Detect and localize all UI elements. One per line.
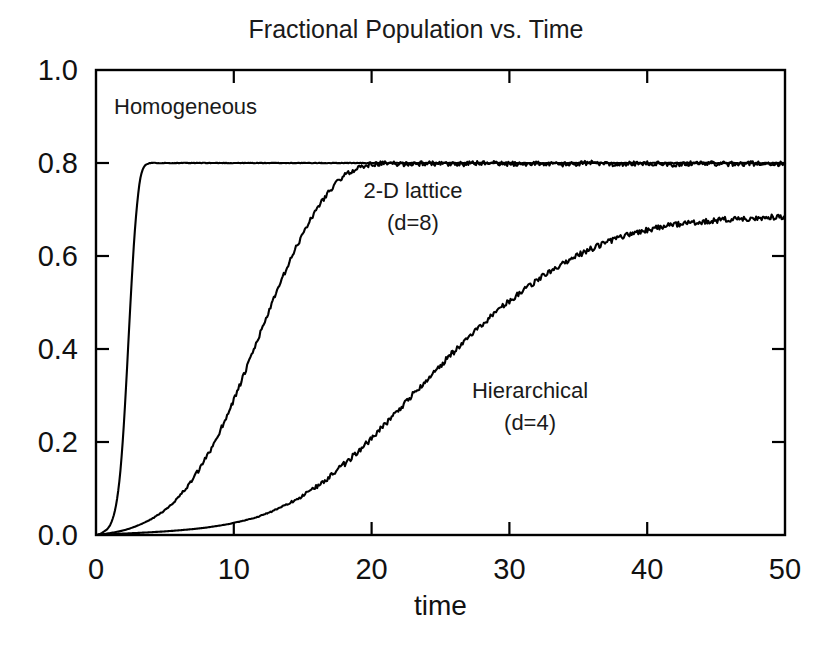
series-annotation: Homogeneous [114, 94, 257, 119]
chart-title: Fractional Population vs. Time [249, 15, 584, 43]
x-tick-label: 10 [218, 553, 250, 585]
y-tick-label: 1.0 [38, 54, 78, 86]
y-tick-label: 0.0 [38, 519, 78, 551]
y-tick-label: 0.2 [38, 426, 78, 458]
x-tick-label: 0 [88, 553, 104, 585]
chart-figure: Fractional Population vs. Time 0.00.20.4… [0, 0, 837, 652]
series-annotation: (d=8) [387, 210, 439, 235]
series-annotation: 2-D lattice [363, 178, 462, 203]
x-axis-title: time [414, 590, 467, 621]
chart-canvas: Fractional Population vs. Time 0.00.20.4… [0, 0, 837, 652]
y-tick-label: 0.8 [38, 147, 78, 179]
y-tick-label: 0.4 [38, 333, 78, 365]
x-tick-label: 50 [769, 553, 801, 585]
x-tick-label: 40 [631, 553, 663, 585]
series-annotation: (d=4) [504, 410, 556, 435]
series-annotation: Hierarchical [472, 378, 588, 403]
x-tick-label: 30 [493, 553, 525, 585]
x-tick-label: 20 [355, 553, 387, 585]
y-tick-label: 0.6 [38, 240, 78, 272]
